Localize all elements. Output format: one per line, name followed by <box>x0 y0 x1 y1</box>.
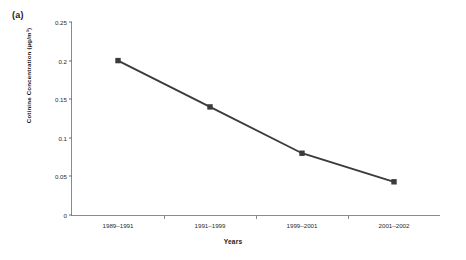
data-point-marker <box>391 179 396 184</box>
y-tick-label: 0.15 <box>55 96 67 103</box>
x-axis-title: Years <box>0 238 466 245</box>
x-tick-label: 2001–2002 <box>379 222 410 229</box>
y-tick-label: 0 <box>64 212 67 219</box>
data-point-marker <box>115 58 120 63</box>
y-axis-title: Cotinine Concentration (µg/m³) <box>25 1 32 151</box>
data-point-marker <box>299 151 304 156</box>
series-line <box>118 61 394 182</box>
x-tick-label: 1999–2001 <box>287 222 318 229</box>
data-point-marker <box>207 104 212 109</box>
x-tick-mark <box>256 215 257 219</box>
x-tick-mark <box>164 215 165 219</box>
plot-area: 00.050.10.150.20.25 1989–19911991–199919… <box>72 22 440 215</box>
y-tick-label: 0.1 <box>58 134 67 141</box>
panel-label: (a) <box>12 10 24 20</box>
x-tick-mark <box>348 215 349 219</box>
y-tick-label: 0.25 <box>55 19 67 26</box>
chart-figure: (a) Cotinine Concentration (µg/m³) 00.05… <box>0 0 466 260</box>
y-tick-label: 0.2 <box>58 57 67 64</box>
y-tick-label: 0.05 <box>55 173 67 180</box>
x-tick-label: 1989–1991 <box>103 222 134 229</box>
x-tick-label: 1991–1999 <box>195 222 226 229</box>
data-series-line <box>72 22 440 215</box>
